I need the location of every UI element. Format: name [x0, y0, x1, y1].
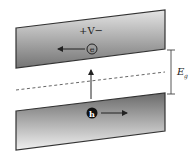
electron-symbol: e: [90, 45, 95, 54]
band-diagram: +V− e h E g: [0, 0, 195, 159]
band-gap-bracket: [167, 50, 175, 94]
voltage-label: +V−: [79, 25, 103, 36]
conduction-band: [16, 10, 165, 68]
band-gap-subscript: g: [184, 72, 188, 80]
valence-band: [16, 93, 165, 150]
hole-symbol: h: [89, 109, 95, 119]
